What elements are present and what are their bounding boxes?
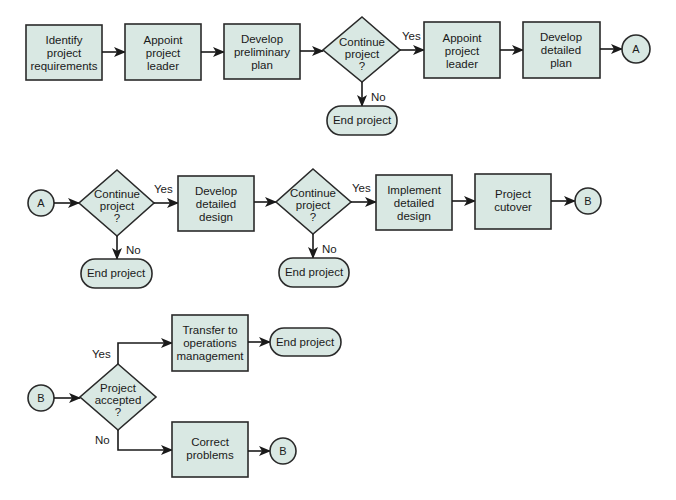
terminator-end-project-1: End project [327, 106, 397, 135]
svg-text:project: project [100, 200, 135, 212]
svg-text:accepted: accepted [95, 394, 142, 406]
svg-text:B: B [37, 392, 44, 404]
terminator-end-project-2: End project [81, 259, 152, 288]
svg-text:?: ? [359, 60, 365, 72]
svg-text:?: ? [115, 406, 121, 418]
svg-text:project: project [445, 45, 480, 57]
svg-text:operations: operations [183, 337, 237, 349]
node-develop-preliminary-plan: Develop preliminary plan [224, 24, 300, 79]
svg-text:A: A [37, 197, 45, 209]
svg-text:Continue: Continue [290, 187, 336, 199]
connector-b-loop: B [270, 438, 296, 464]
svg-text:Develop: Develop [195, 185, 237, 197]
svg-text:Transfer to: Transfer to [182, 324, 237, 336]
svg-text:project: project [296, 199, 331, 211]
svg-text:Continue: Continue [94, 188, 140, 200]
decision-continue-project-1: Continue project ? [323, 17, 400, 82]
svg-text:leader: leader [446, 58, 478, 70]
edge-decision4-no [118, 430, 172, 450]
node-project-cutover: Project cutover [475, 174, 551, 229]
svg-text:Appoint: Appoint [143, 34, 183, 46]
node-appoint-leader-1: Appoint project leader [125, 24, 201, 80]
svg-text:Identify: Identify [45, 34, 82, 46]
svg-text:project: project [146, 47, 181, 59]
svg-text:detailed: detailed [394, 197, 434, 209]
svg-text:project: project [47, 47, 82, 59]
decision-project-accepted: Project accepted ? [80, 364, 156, 430]
svg-text:End project: End project [87, 267, 146, 279]
svg-text:Continue: Continue [339, 36, 385, 48]
node-transfer-to-operations: Transfer to operations management [172, 315, 248, 371]
node-develop-detailed-design: Develop detailed design [178, 176, 254, 231]
edge-decision4-yes [118, 343, 172, 364]
node-appoint-leader-2: Appoint project leader [424, 22, 500, 78]
terminator-end-project-3: End project [279, 258, 349, 287]
label-no-4: No [95, 434, 110, 446]
node-correct-problems: Correct problems [172, 422, 248, 477]
label-yes-2: Yes [154, 183, 173, 195]
label-no-1: No [371, 91, 386, 103]
svg-text:cutover: cutover [494, 201, 532, 213]
node-develop-detailed-plan: Develop detailed plan [523, 22, 600, 78]
label-yes-1: Yes [402, 30, 421, 42]
svg-text:?: ? [114, 212, 120, 224]
svg-text:detailed: detailed [541, 44, 581, 56]
label-yes-4: Yes [92, 348, 111, 360]
svg-text:End project: End project [276, 336, 335, 348]
svg-text:End project: End project [285, 266, 344, 278]
svg-text:problems: problems [186, 449, 234, 461]
svg-text:Appoint: Appoint [442, 32, 482, 44]
connector-a-in: A [28, 190, 54, 216]
svg-text:detailed: detailed [196, 198, 236, 210]
connector-b-in: B [28, 385, 54, 411]
svg-text:Develop: Develop [540, 31, 582, 43]
label-yes-3: Yes [352, 182, 371, 194]
svg-text:plan: plan [251, 59, 273, 71]
svg-text:Develop: Develop [241, 33, 283, 45]
project-flowchart: Identify project requirements Appoint pr… [0, 0, 676, 500]
decision-continue-project-3: Continue project ? [276, 169, 351, 234]
svg-text:management: management [176, 350, 244, 362]
node-identify-requirements: Identify project requirements [26, 25, 102, 80]
svg-text:B: B [584, 195, 591, 207]
svg-text:leader: leader [147, 60, 179, 72]
svg-text:Project: Project [100, 382, 137, 394]
svg-text:project: project [345, 48, 380, 60]
svg-text:preliminary: preliminary [234, 46, 290, 58]
svg-text:A: A [632, 43, 640, 55]
terminator-end-project-4: End project [270, 328, 341, 356]
svg-text:Project: Project [495, 188, 532, 200]
svg-text:design: design [199, 211, 233, 223]
svg-text:design: design [397, 210, 431, 222]
decision-continue-project-2: Continue project ? [79, 170, 154, 236]
svg-text:Implement: Implement [387, 184, 441, 196]
svg-text:Correct: Correct [191, 436, 230, 448]
label-no-3: No [322, 243, 337, 255]
svg-text:B: B [279, 445, 286, 457]
label-no-2: No [126, 244, 141, 256]
svg-text:plan: plan [550, 57, 572, 69]
connector-a-out: A [622, 35, 650, 63]
node-implement-detailed-design: Implement detailed design [376, 175, 452, 230]
svg-text:?: ? [310, 211, 316, 223]
connector-b-out: B [575, 188, 601, 214]
svg-text:End project: End project [333, 114, 392, 126]
svg-text:requirements: requirements [30, 60, 97, 72]
